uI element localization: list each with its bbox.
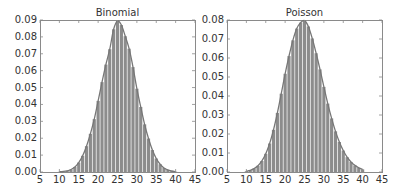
x-tick-label: 35: [333, 175, 353, 185]
y-tick-label: 0.04: [188, 91, 224, 101]
histogram-bar: [287, 56, 290, 172]
y-tick-label: 0.07: [188, 34, 224, 44]
y-tick-label: 0.01: [188, 148, 224, 158]
x-tick-label: 15: [256, 175, 276, 185]
histogram-bar: [318, 69, 321, 172]
histogram-bar: [338, 142, 341, 172]
histogram-bar: [284, 74, 287, 172]
y-tick-label: 0.02: [188, 129, 224, 139]
histogram-bar: [326, 104, 329, 172]
histogram-bar: [334, 131, 337, 172]
histogram-bar: [276, 113, 279, 172]
histogram-bar: [330, 118, 333, 172]
x-tick-label: 40: [353, 175, 373, 185]
x-tick-label: 25: [295, 175, 315, 185]
x-tick-label: 5: [217, 175, 237, 185]
histogram-bar: [307, 26, 310, 172]
y-tick-label: 0.05: [188, 72, 224, 82]
x-tick-label: 45: [372, 175, 392, 185]
x-tick-label: 20: [275, 175, 295, 185]
x-tick-label: 10: [236, 175, 256, 185]
y-tick-label: 0.08: [188, 15, 224, 25]
histogram-bar: [299, 23, 302, 172]
y-tick-label: 0.03: [188, 110, 224, 120]
histogram-bar: [311, 38, 314, 172]
histogram-bar: [291, 40, 294, 172]
x-tick-label: 30: [314, 175, 334, 185]
histogram-bar: [315, 53, 318, 172]
histogram-bar: [322, 87, 325, 172]
histogram-bar: [295, 29, 298, 172]
y-tick-label: 0.06: [188, 53, 224, 63]
histogram-bar: [280, 94, 283, 172]
histogram-bar: [303, 21, 306, 172]
